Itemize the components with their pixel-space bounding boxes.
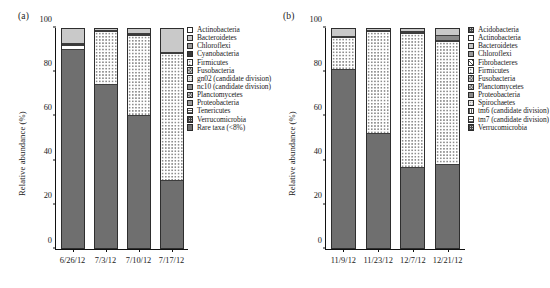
- x-tick-mark: [73, 249, 74, 252]
- panel-b-legend: AcidobacteriaActinobacteriaBacteroidetes…: [468, 26, 549, 132]
- legend-label: Verrucomicrobia: [478, 124, 527, 132]
- panel-b-bars: [326, 28, 465, 249]
- bar-segment-proteobacteria: [128, 35, 150, 115]
- legend-swatch-icon: [187, 92, 193, 98]
- legend-swatch-icon: [187, 75, 193, 81]
- panel-b: (b) Relative abundance (%) 020406080100 …: [275, 0, 550, 288]
- legend-item-verrucomicrobia[interactable]: Verrucomicrobia: [187, 116, 271, 124]
- x-tick-label-6/26/12: 6/26/12: [58, 256, 88, 265]
- panel-a-y-tick-label: 20: [44, 192, 52, 200]
- bar-segment-proteobacteria: [436, 41, 459, 164]
- panel-b-x-tick-labels: 11/9/1211/23/1212/7/1212/21/12: [326, 249, 465, 265]
- x-tick-mark: [172, 249, 173, 252]
- legend-item-rare-taxa-8-[interactable]: Rare taxa (<8%): [187, 124, 271, 132]
- bar-segment-proteobacteria: [367, 31, 390, 133]
- bar-segment-rare-taxa-8-: [128, 115, 150, 248]
- bar-segment-proteobacteria: [161, 53, 183, 180]
- legend-swatch-icon: [187, 67, 193, 73]
- bar-segment-proteobacteria: [332, 37, 355, 69]
- legend-item-tm6-candidate-division-[interactable]: tm6 (candidate division): [468, 107, 549, 115]
- x-tick-label-7/3/12: 7/3/12: [91, 256, 121, 265]
- bar-segment-rare-taxa-8-: [161, 180, 183, 248]
- legend-swatch-icon: [187, 27, 193, 33]
- legend-swatch-icon: [468, 100, 474, 106]
- x-tick-mark: [378, 249, 379, 252]
- panel-a-y-tick-label: 60: [44, 104, 52, 112]
- stacked-bar-12/7/12[interactable]: [400, 28, 425, 249]
- panel-a-y-tick-label: 40: [44, 148, 52, 156]
- x-tick-label-12/21/12: 12/21/12: [431, 256, 464, 265]
- panel-a-y-tick-label: 80: [44, 60, 52, 68]
- legend-swatch-icon: [468, 75, 474, 81]
- stacked-bar-7/17/12[interactable]: [160, 28, 184, 249]
- legend-label: tm6 (candidate division): [478, 107, 549, 115]
- stacked-bar-6/26/12[interactable]: [61, 28, 85, 249]
- x-tick-label-12/7/12: 12/7/12: [396, 256, 429, 265]
- bar-segment-rare-taxa-8-: [95, 84, 117, 248]
- x-tick-mark: [139, 249, 140, 252]
- legend-item-tenericutes[interactable]: Tenericutes: [187, 107, 271, 115]
- panel-a-bars: [56, 28, 188, 249]
- legend-swatch-icon: [468, 84, 474, 90]
- legend-item-cyanobacteria[interactable]: Cyanobacteria: [187, 50, 271, 58]
- stacked-bar-7/3/12[interactable]: [94, 28, 118, 249]
- panel-b-y-tick-label: 0: [318, 236, 322, 244]
- x-tick-label-11/9/12: 11/9/12: [327, 256, 360, 265]
- bar-segment-rare-taxa: [401, 167, 424, 248]
- legend-label: Rare taxa (<8%): [197, 124, 245, 132]
- legend-label: tm7 (candidate division): [478, 116, 549, 124]
- x-tick-label-11/23/12: 11/23/12: [362, 256, 395, 265]
- panel-a-y-tick-label: 0: [48, 236, 52, 244]
- panel-b-label: (b): [283, 11, 295, 21]
- legend-swatch-icon: [468, 124, 474, 130]
- bar-segment-rare-taxa: [436, 164, 459, 248]
- legend-swatch-icon: [187, 59, 193, 65]
- legend-label: Chloroflexi: [478, 50, 512, 58]
- panel-a-x-tick-labels: 6/26/127/3/127/10/127/17/12: [56, 249, 188, 265]
- panel-b-y-tick-label: 100: [309, 15, 322, 23]
- panel-b-y-axis-title: Relative abundance (%): [287, 111, 297, 196]
- legend-swatch-icon: [468, 43, 474, 49]
- panel-a-y-tick-label: 100: [39, 15, 52, 23]
- legend-swatch-icon: [468, 27, 474, 33]
- bar-segment-rare-taxa-8-: [62, 49, 84, 248]
- stacked-bar-12/21/12[interactable]: [435, 28, 460, 249]
- legend-item-verrucomicrobia[interactable]: Verrucomicrobia: [468, 124, 549, 132]
- stacked-bar-7/10/12[interactable]: [127, 28, 151, 249]
- legend-swatch-icon: [187, 51, 193, 57]
- legend-swatch-icon: [468, 92, 474, 98]
- figure-root: (a) Relative abundance (%) 020406080100 …: [0, 0, 550, 288]
- legend-swatch-icon: [187, 116, 193, 122]
- stacked-bar-11/23/12[interactable]: [366, 28, 391, 249]
- x-tick-label-7/10/12: 7/10/12: [124, 256, 154, 265]
- legend-label: Tenericutes: [197, 107, 230, 115]
- panel-a-legend: ActinobacteriaBacteroidetesChloroflexiCy…: [187, 26, 271, 132]
- legend-swatch-icon: [187, 100, 193, 106]
- legend-swatch-icon: [187, 108, 193, 114]
- legend-item-tm7-candidate-division-[interactable]: tm7 (candidate division): [468, 116, 549, 124]
- bar-segment-bacteroidetes: [161, 29, 183, 52]
- x-tick-mark: [413, 249, 414, 252]
- panel-b-y-tick-label: 80: [314, 60, 322, 68]
- legend-swatch-icon: [468, 108, 474, 114]
- legend-swatch-icon: [468, 35, 474, 41]
- panel-b-plot-area: 020406080100 11/9/1211/23/1212/7/1212/21…: [325, 28, 465, 250]
- panel-b-y-tick-label: 60: [314, 104, 322, 112]
- x-tick-mark: [343, 249, 344, 252]
- legend-swatch-icon: [468, 59, 474, 65]
- legend-label: Verrucomicrobia: [197, 116, 246, 124]
- panel-a-label: (a): [18, 11, 29, 21]
- stacked-bar-11/9/12[interactable]: [331, 28, 356, 249]
- bar-segment-proteobacteria: [95, 31, 117, 84]
- x-tick-mark: [448, 249, 449, 252]
- panel-a-y-axis-title: Relative abundance (%): [17, 111, 27, 196]
- legend-swatch-icon: [187, 35, 193, 41]
- legend-swatch-icon: [187, 43, 193, 49]
- legend-swatch-icon: [468, 67, 474, 73]
- panel-a-plot-area: 020406080100 6/26/127/3/127/10/127/17/12: [55, 28, 188, 250]
- panel-b-y-tick-label: 40: [314, 148, 322, 156]
- panel-b-y-tick-label: 20: [314, 192, 322, 200]
- legend-swatch-icon: [187, 124, 193, 130]
- legend-item-chloroflexi[interactable]: Chloroflexi: [468, 50, 549, 58]
- legend-swatch-icon: [468, 51, 474, 57]
